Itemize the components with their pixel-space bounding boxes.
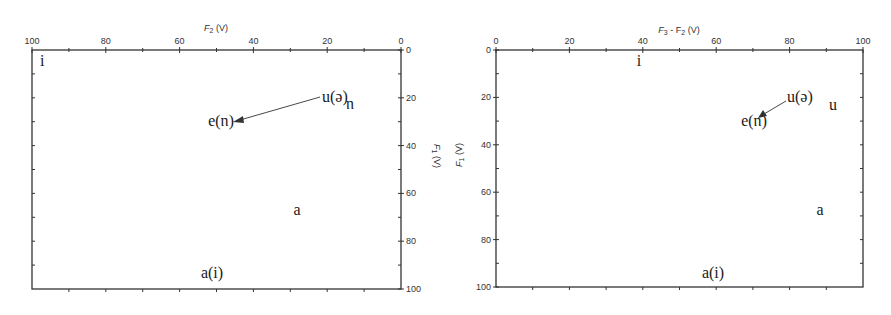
vowel-label-a: a [293, 201, 300, 218]
vowel-label-u-schwa: u(ə) [322, 88, 348, 106]
y-tick-label: 0 [406, 45, 411, 55]
figure: 100 80 60 40 20 0 F2 (V) [0, 0, 891, 315]
x-tick-label: 60 [711, 36, 721, 46]
x-tick-label: 0 [398, 36, 403, 46]
transition-arrow [240, 97, 320, 120]
x-tick-label: 20 [564, 36, 574, 46]
transition-arrow [764, 101, 786, 114]
y-tick-label: 20 [406, 93, 416, 103]
left-chart: 100 80 60 40 20 0 F2 (V) [24, 23, 442, 294]
vowel-label-schwa-u-flipped: (u)ə [208, 114, 234, 132]
right-y-tick-labels: 0 20 40 60 80 100 [476, 45, 491, 292]
left-x-ticks [32, 47, 401, 292]
right-x-axis-title: F3 - F2 (V) [658, 25, 699, 36]
y-tick-label: 80 [481, 235, 491, 245]
left-plot-frame [32, 50, 401, 289]
right-y-axis-title: F1 (V) [454, 143, 465, 167]
left-y-tick-labels: 0 20 40 60 80 100 [406, 45, 421, 294]
x-tick-label: 100 [24, 36, 39, 46]
y-tick-label: 20 [481, 92, 491, 102]
vowel-label-u-flipped: u [346, 98, 354, 115]
right-x-ticks [496, 47, 863, 290]
left-y-ticks [32, 50, 404, 289]
vowel-label-schwa-u-flipped: (u)ə [741, 114, 767, 132]
x-tick-label: 0 [493, 36, 498, 46]
vowel-label-a: a [816, 201, 823, 218]
vowel-label-i: i [637, 52, 642, 69]
x-tick-label: 80 [785, 36, 795, 46]
vowel-label-a-i: a(i) [702, 264, 724, 282]
x-tick-label: 60 [175, 36, 185, 46]
x-tick-label: 40 [638, 36, 648, 46]
left-y-axis-title: F1 (V) [431, 144, 442, 168]
y-tick-label: 60 [481, 187, 491, 197]
right-x-tick-labels: 0 20 40 60 80 100 [493, 36, 870, 46]
right-y-ticks [493, 50, 863, 287]
y-tick-label: 40 [481, 140, 491, 150]
x-tick-label: 100 [855, 36, 870, 46]
x-tick-label: 40 [248, 36, 258, 46]
left-x-tick-labels: 100 80 60 40 20 0 [24, 36, 403, 46]
right-plot-frame [496, 50, 863, 287]
y-tick-label: 60 [406, 188, 416, 198]
y-tick-label: 0 [486, 45, 491, 55]
vowel-label-u-schwa: u(ə) [787, 88, 813, 106]
y-tick-label: 100 [406, 284, 421, 294]
vowel-label-a-i: a(i) [201, 264, 223, 282]
right-chart: 0 20 40 60 80 100 F3 - F2 (V) [454, 25, 871, 292]
y-tick-label: 80 [406, 236, 416, 246]
y-tick-label: 40 [406, 141, 416, 151]
y-tick-label: 100 [476, 282, 491, 292]
vowel-label-i: i [40, 52, 45, 69]
vowel-label-u: u [829, 96, 837, 113]
x-tick-label: 80 [101, 36, 111, 46]
x-tick-label: 20 [322, 36, 332, 46]
left-x-axis-title: F2 (V) [204, 23, 228, 34]
